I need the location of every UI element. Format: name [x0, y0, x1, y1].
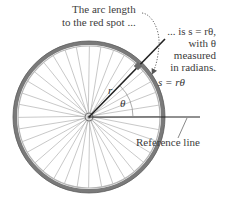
wheel-spoke	[18, 116, 85, 117]
wheel-spoke	[93, 71, 144, 115]
wheel-spoke	[19, 118, 85, 128]
wheel-spoke	[89, 121, 90, 188]
formula-caption: ... is s = rθ, with θ measured in radian…	[167, 26, 216, 73]
formula-caption-line1: ... is s = rθ,	[167, 26, 216, 37]
wheel-spoke	[34, 72, 86, 114]
wheel-spoke	[43, 121, 87, 172]
reference-line-leader	[178, 118, 187, 138]
arc-formula-label: s = rθ	[158, 76, 185, 88]
arc-length-diagram: The arc length to the red spot ... ... i…	[0, 0, 230, 205]
formula-caption-line3: measured	[167, 50, 216, 61]
wheel-spoke	[91, 63, 135, 114]
wheel-spoke	[91, 121, 113, 184]
wheel-spoke	[28, 81, 85, 115]
arc-length-pointer	[142, 13, 159, 72]
wheel-spoke	[88, 46, 89, 113]
arc-length-caption: The arc length to the red spot ...	[62, 4, 136, 28]
wheel-spoke	[64, 121, 88, 184]
wheel-spoke	[77, 121, 88, 187]
wheel-spoke	[89, 121, 102, 187]
wheel-spoke	[22, 93, 85, 115]
angle-label: θ	[120, 97, 125, 109]
wheel-spoke	[76, 47, 89, 113]
wheel-spoke	[54, 120, 87, 179]
wheel-spoke	[19, 104, 85, 117]
arc-length-caption-line1: The arc length	[62, 4, 136, 15]
wheel-spoke	[53, 56, 87, 113]
wheel-spoke	[93, 117, 159, 130]
formula-caption-line4: in radians.	[167, 62, 216, 73]
radius-label: r	[108, 84, 112, 96]
wheel-spoke	[22, 118, 85, 142]
wheel-spoke	[44, 62, 86, 114]
arc-length-caption-line2: to the red spot ...	[62, 17, 136, 28]
formula-caption-line2: with θ	[167, 38, 216, 49]
wheel-spoke	[65, 50, 87, 113]
wheel-spoke	[27, 120, 86, 153]
reference-line-label: Reference line	[136, 137, 200, 148]
wheel-spoke	[90, 47, 101, 113]
wheel-spoke	[92, 120, 134, 172]
wheel-spoke	[35, 119, 86, 163]
wheel-spoke	[93, 105, 159, 116]
wheel-spoke	[90, 121, 124, 179]
